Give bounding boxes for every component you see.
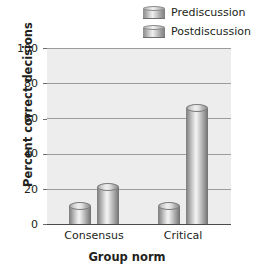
gridline-100: [47, 48, 231, 49]
cylinder-icon: [143, 7, 165, 19]
y-tick-label-0: 0: [31, 219, 38, 230]
plot-area: [47, 48, 231, 225]
bar-critical-postdiscussion: [186, 108, 208, 224]
x-tick-label-critical: Critical: [164, 230, 202, 242]
legend-item-postdiscussion: Postdiscussion: [143, 23, 253, 40]
bar-top-cap: [69, 202, 91, 210]
bar-top-cap: [158, 202, 180, 210]
bar-critical-prediscussion: [158, 206, 180, 224]
legend-label-postdiscussion: Postdiscussion: [171, 25, 251, 38]
gridline-80: [47, 83, 231, 84]
legend-label-prediscussion: Prediscussion: [171, 6, 246, 19]
x-axis-title: Group norm: [0, 250, 254, 264]
bar-shaft: [97, 187, 119, 224]
bar-top-cap: [97, 183, 119, 191]
y-axis-title: Percent correct decisions: [21, 27, 35, 187]
cylinder-icon: [143, 26, 165, 38]
bar-chart-figure: Prediscussion Postdiscussion 100 80 60 4…: [0, 0, 254, 270]
bar-shaft: [186, 108, 208, 224]
bar-top-cap: [186, 104, 208, 112]
chart-legend: Prediscussion Postdiscussion: [143, 4, 253, 42]
bar-consensus-prediscussion: [69, 206, 91, 224]
legend-item-prediscussion: Prediscussion: [143, 4, 253, 21]
bar-consensus-postdiscussion: [97, 187, 119, 224]
x-tick-label-consensus: Consensus: [64, 230, 123, 242]
